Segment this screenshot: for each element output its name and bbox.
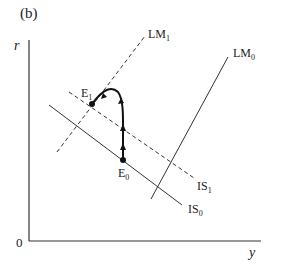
- origin-label: 0: [16, 235, 23, 250]
- e1-label: E1: [81, 86, 92, 102]
- path-arrow-2: [120, 143, 126, 150]
- r-axis-label: r: [14, 38, 20, 53]
- lm1-label: LM1: [148, 27, 170, 43]
- islm-diagram: (b) r y 0 LM1 LM0 IS1 IS0 E1 E0: [0, 0, 296, 266]
- is1-label: IS1: [197, 179, 212, 195]
- path-arrow-3: [118, 98, 124, 104]
- e0-point: [120, 157, 126, 163]
- lm0-label: LM0: [233, 46, 255, 62]
- is0-label: IS0: [188, 202, 203, 218]
- y-axis-label: y: [247, 245, 256, 260]
- e0-label: E0: [118, 166, 129, 182]
- panel-label: (b): [20, 5, 38, 22]
- lm0-curve: [151, 57, 228, 199]
- is1-curve: [69, 92, 194, 178]
- is0-curve: [49, 105, 182, 205]
- path-arrow-1: [120, 124, 126, 131]
